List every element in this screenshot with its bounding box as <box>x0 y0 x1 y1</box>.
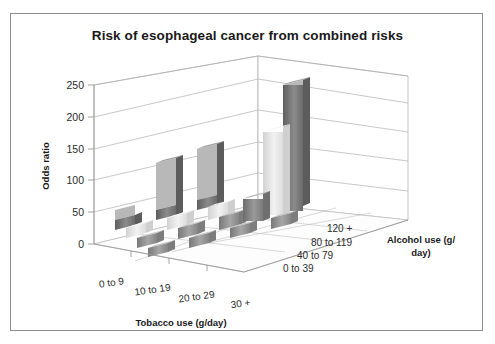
y-axis-title: Odds ratio <box>40 142 51 190</box>
y-tick-200: 200 <box>66 111 84 123</box>
chart-svg: 250 200 150 100 50 0 Odds ratio <box>11 14 484 332</box>
y-tick-100: 100 <box>66 174 84 186</box>
x-axis-labels: 0 to 9 10 to 19 20 to 29 30 + <box>98 275 251 310</box>
y-axis: 250 200 150 100 50 0 Odds ratio <box>40 79 94 250</box>
x-label-30plus: 30 + <box>230 297 251 311</box>
chart-frame: Risk of esophageal cancer from combined … <box>10 13 483 331</box>
x-label-10to19: 10 to 19 <box>134 282 172 298</box>
z-axis-title-line2: day) <box>411 247 431 258</box>
bar-10to19-120plus <box>156 155 183 220</box>
x-axis-title: Tobacco use (g/day) <box>135 317 226 328</box>
z-axis-title: Alcohol use (g/ day) <box>387 234 455 258</box>
bar-20to29-120plus <box>197 141 224 210</box>
y-tick-50: 50 <box>72 206 84 218</box>
z-label-120plus: 120 + <box>327 223 352 234</box>
z-label-80to119: 80 to 119 <box>311 237 352 248</box>
x-label-20to29: 20 to 29 <box>178 289 216 305</box>
y-tick-0: 0 <box>78 238 84 250</box>
y-tick-250: 250 <box>66 79 84 91</box>
x-label-0to9: 0 to 9 <box>98 275 125 289</box>
z-label-0to39: 0 to 39 <box>283 263 314 274</box>
z-label-40to79: 40 to 79 <box>297 250 334 261</box>
chart-plot-area: 250 200 150 100 50 0 Odds ratio <box>11 14 484 332</box>
y-tick-150: 150 <box>66 143 84 155</box>
z-axis-title-line1: Alcohol use (g/ <box>387 234 455 245</box>
